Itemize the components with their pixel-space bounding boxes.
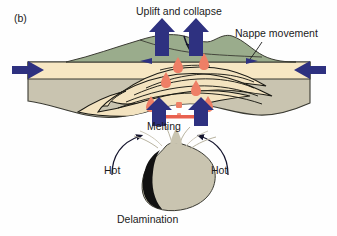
- delaminating-root-group: [134, 126, 216, 211]
- label-delamination: Delamination: [117, 214, 178, 225]
- figure-panel-b: (b) Uplift and collapse Nappe movement M…: [0, 0, 337, 236]
- magma-speck-1: [176, 102, 182, 108]
- label-uplift-and-collapse: Uplift and collapse: [136, 6, 222, 17]
- label-nappe-movement: Nappe movement: [235, 28, 318, 39]
- label-hot-left: Hot: [104, 165, 120, 176]
- asthenosphere-flowline-1: [134, 136, 158, 148]
- label-melting: Melting: [147, 121, 181, 132]
- asthenosphere-flowline-4: [180, 127, 190, 143]
- surface-green-layer: [66, 35, 296, 64]
- label-hot-right: Hot: [211, 165, 227, 176]
- panel-label: (b): [14, 13, 27, 24]
